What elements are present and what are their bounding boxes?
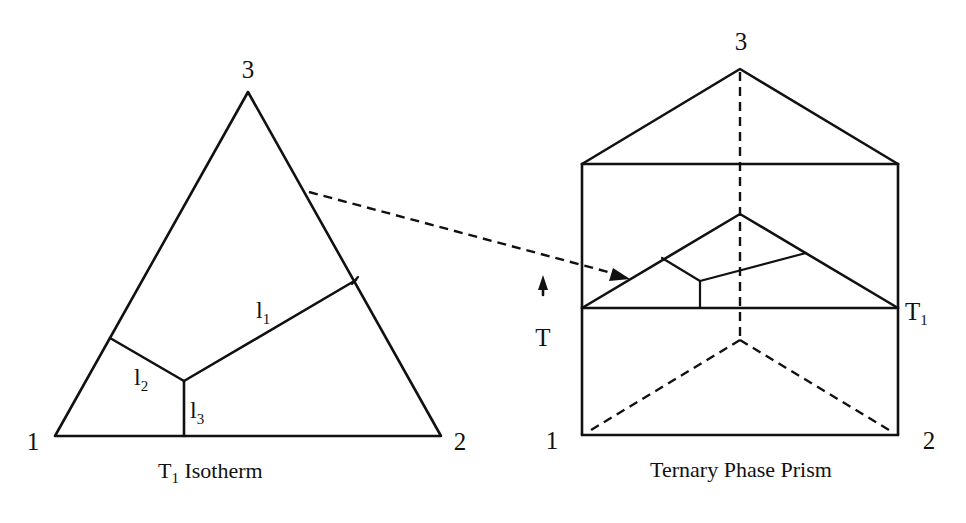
isotherm-triangle: [55, 92, 441, 436]
boundary-line-l2: [110, 338, 184, 381]
isotherm-caption: T1 Isotherm: [158, 458, 263, 486]
arrowhead-icon: [609, 268, 630, 281]
prism-vertex-1-label: 1: [546, 427, 559, 454]
prism-caption: Ternary Phase Prism: [650, 457, 832, 482]
prism-vertex-2-label: 2: [923, 427, 936, 454]
isotherm-vertex-1-label: 1: [27, 428, 40, 455]
label-l2: l2: [134, 364, 148, 394]
prism-panel: T 3 1 2 T1 Ternary Phase Prism: [535, 28, 935, 482]
prism-bottom-back-left-hidden: [586, 340, 740, 433]
prism-vertex-3-label: 3: [735, 28, 748, 55]
label-l1: l1: [256, 297, 270, 327]
isotherm-level-label: T1: [905, 298, 928, 328]
projection-arrow-line: [309, 192, 612, 273]
isotherm-vertex-2-label: 2: [454, 428, 467, 455]
isotherm-vertex-3-label: 3: [242, 56, 255, 83]
isotherm-panel: 3 1 2 l1 l2 l3 T1 Isotherm: [27, 56, 467, 486]
ternary-phase-figure: 3 1 2 l1 l2 l3 T1 Isotherm: [0, 0, 966, 523]
temperature-axis-label: T: [535, 324, 550, 351]
prism-bottom-back-right-hidden: [740, 340, 894, 433]
boundary-line-l1: [184, 280, 356, 381]
section-boundary-l2: [662, 258, 700, 281]
label-l3: l3: [190, 397, 204, 427]
temperature-up-arrow-icon: [538, 275, 548, 290]
section-boundary-l1: [700, 253, 806, 281]
